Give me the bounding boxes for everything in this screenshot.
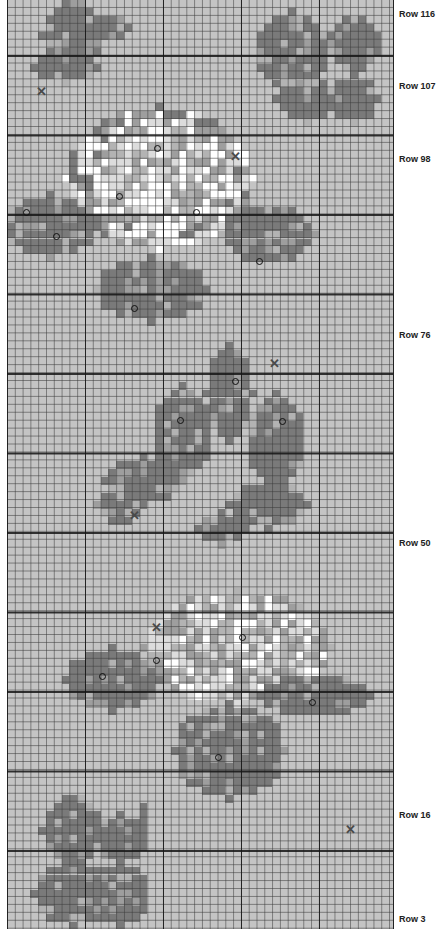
stitch-cell	[147, 294, 155, 302]
stitch-cell	[54, 239, 62, 247]
stitch-cell	[69, 827, 77, 835]
stitch-cell	[272, 24, 280, 32]
stitch-cell	[249, 628, 257, 636]
stitch-cell	[194, 286, 202, 294]
stitch-cell	[124, 469, 132, 477]
stitch-cell	[54, 8, 62, 16]
stitch-cell	[108, 119, 116, 127]
stitch-cell	[46, 827, 54, 835]
stitch-cell	[140, 183, 148, 191]
stitch-cell	[288, 111, 296, 119]
stitch-cell	[233, 493, 241, 501]
stitch-cell	[241, 485, 249, 493]
stitch-cell	[218, 143, 226, 151]
stitch-cell	[132, 270, 140, 278]
stitch-cell	[93, 207, 101, 215]
stitch-cell	[85, 159, 93, 167]
stitch-cell	[77, 676, 85, 684]
stitch-cell	[46, 32, 54, 40]
stitch-cell	[335, 32, 343, 40]
stitch-cell	[272, 421, 280, 429]
stitch-cell	[194, 636, 202, 644]
stitch-cell	[280, 517, 288, 525]
stitch-cell	[350, 56, 358, 64]
stitch-cell	[108, 143, 116, 151]
stitch-cell	[257, 509, 265, 517]
stitch-cell	[101, 231, 109, 239]
stitch-cell	[327, 708, 335, 716]
stitch-cell	[241, 525, 249, 533]
stitch-cell	[249, 517, 257, 525]
stitch-cell	[186, 429, 194, 437]
stitch-cell	[101, 278, 109, 286]
stitch-cell	[218, 175, 226, 183]
stitch-cell	[116, 223, 124, 231]
stitch-cell	[93, 843, 101, 851]
stitch-cell	[85, 167, 93, 175]
stitch-cell	[171, 405, 179, 413]
stitch-cell	[179, 175, 187, 183]
stitch-cell	[155, 127, 163, 135]
stitch-cell	[257, 612, 265, 620]
stitch-cell	[272, 16, 280, 24]
stitch-cell	[186, 231, 194, 239]
stitch-cell	[179, 151, 187, 159]
stitch-cell	[116, 501, 124, 509]
stitch-cell	[218, 541, 226, 549]
stitch-cell	[147, 461, 155, 469]
stitch-cell	[124, 668, 132, 676]
stitch-cell	[272, 72, 280, 80]
stitch-cell	[69, 875, 77, 883]
stitch-cell	[77, 40, 85, 48]
stitch-cell	[358, 103, 366, 111]
stitch-cell	[272, 700, 280, 708]
stitch-cell	[186, 668, 194, 676]
stitch-cell	[194, 445, 202, 453]
stitch-cell	[303, 501, 311, 509]
stitch-cell	[101, 700, 109, 708]
stitch-cell	[69, 48, 77, 56]
stitch-cell	[296, 16, 304, 24]
stitch-cell	[116, 493, 124, 501]
stitch-cell	[218, 405, 226, 413]
stitch-cell	[296, 103, 304, 111]
stitch-cell	[311, 676, 319, 684]
stitch-cell	[124, 867, 132, 875]
stitch-cell	[171, 469, 179, 477]
stitch-cell	[288, 421, 296, 429]
stitch-cell	[280, 87, 288, 95]
stitch-cell	[101, 223, 109, 231]
stitch-cell	[249, 223, 257, 231]
stitch-cell	[163, 111, 171, 119]
stitch-cell	[155, 159, 163, 167]
stitch-cell	[303, 231, 311, 239]
stitch-cell	[46, 48, 54, 56]
stitch-cell	[62, 819, 70, 827]
stitch-cell	[62, 16, 70, 24]
stitch-cell	[132, 469, 140, 477]
stitch-cell	[108, 231, 116, 239]
stitch-cell	[319, 80, 327, 88]
stitch-cell	[46, 890, 54, 898]
stitch-cell	[264, 445, 272, 453]
stitch-cell	[233, 739, 241, 747]
stitch-cell	[249, 787, 257, 795]
stitch-cell	[241, 501, 249, 509]
stitch-cell	[108, 843, 116, 851]
stitch-cell	[210, 405, 218, 413]
stitch-cell	[194, 596, 202, 604]
stitch-cell	[264, 493, 272, 501]
stitch-cell	[77, 16, 85, 24]
stitch-cell	[303, 32, 311, 40]
stitch-cell	[116, 119, 124, 127]
stitch-cell	[280, 103, 288, 111]
stitch-cell	[132, 652, 140, 660]
stitch-cell	[140, 199, 148, 207]
stitch-cell	[257, 771, 265, 779]
stitch-cell	[210, 231, 218, 239]
stitch-cell	[280, 453, 288, 461]
stitch-cell	[264, 405, 272, 413]
stitch-cell	[171, 262, 179, 270]
stitch-cell	[46, 898, 54, 906]
stitch-cell	[366, 32, 374, 40]
